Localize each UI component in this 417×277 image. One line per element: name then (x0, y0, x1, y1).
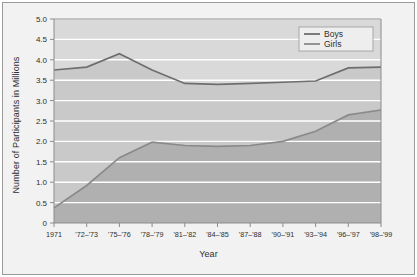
chart-figure: 00.51.01.52.02.53.03.54.04.55.0 1971'72–… (0, 0, 417, 277)
y-tick-label: 1.5 (36, 158, 48, 167)
x-axis-ticks: 1971'72–'73'75–'76'78–'79'81–'82'84–'85'… (46, 223, 392, 239)
x-tick-label: '98–'99 (370, 230, 393, 239)
x-tick-label: '72–'73 (75, 230, 98, 239)
y-tick-label: 2.0 (36, 137, 48, 146)
chart-legend: Boys Girls (299, 27, 373, 51)
legend-label-boys: Boys (324, 29, 343, 39)
x-tick-label: 1971 (46, 230, 62, 239)
x-tick-label: '78–'79 (141, 230, 164, 239)
y-tick-label: 2.5 (36, 117, 48, 126)
y-tick-label: 3.5 (36, 76, 48, 85)
line-area-chart: 00.51.01.52.02.53.03.54.04.55.0 1971'72–… (0, 0, 417, 277)
y-tick-label: 3.0 (36, 97, 48, 106)
y-axis-title: Number of Participants in Millions (11, 35, 21, 215)
x-tick-label: '81–'82 (173, 230, 196, 239)
y-tick-label: 0.5 (36, 199, 48, 208)
x-tick-label: '96–'97 (337, 230, 360, 239)
y-tick-label: 4.5 (36, 35, 48, 44)
y-tick-label: 4.0 (36, 56, 48, 65)
x-tick-label: '87–'88 (239, 230, 262, 239)
x-tick-label: '93–'94 (304, 230, 327, 239)
x-tick-label: '84–'85 (206, 230, 229, 239)
x-tick-label: '90–'91 (272, 230, 295, 239)
y-tick-label: 0 (43, 219, 48, 228)
x-axis-title: Year (0, 249, 417, 259)
y-tick-label: 1.0 (36, 178, 48, 187)
y-axis-ticks: 00.51.01.52.02.53.03.54.04.55.0 (36, 15, 54, 228)
y-tick-label: 5.0 (36, 15, 48, 24)
legend-label-girls: Girls (324, 39, 341, 49)
x-tick-label: '75–'76 (108, 230, 131, 239)
